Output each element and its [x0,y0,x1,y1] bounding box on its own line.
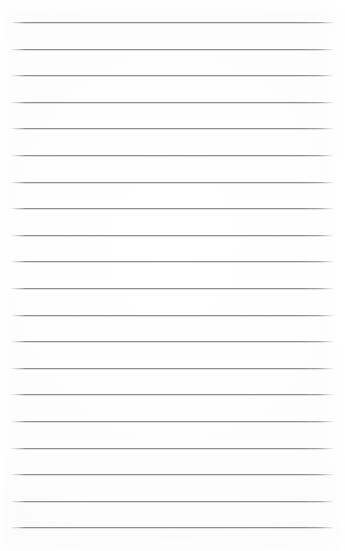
rule-line [11,527,334,528]
rule-line [11,182,334,183]
rule-line-group [0,0,345,551]
rule-line [11,448,334,449]
rule-line [11,49,334,50]
rule-line [11,235,334,236]
rule-line [11,501,334,502]
rule-line [11,474,334,475]
rule-line [11,155,334,156]
rule-line [11,288,334,289]
rule-line [11,75,334,76]
rule-line [11,128,334,129]
rule-line [11,341,334,342]
rule-line [11,394,334,395]
rule-line [11,22,334,23]
rule-line [11,315,334,316]
rule-line [11,261,334,262]
rule-line [11,368,334,369]
rule-line [11,421,334,422]
lined-paper-page [0,0,345,551]
rule-line [11,102,334,103]
rule-line [11,208,334,209]
